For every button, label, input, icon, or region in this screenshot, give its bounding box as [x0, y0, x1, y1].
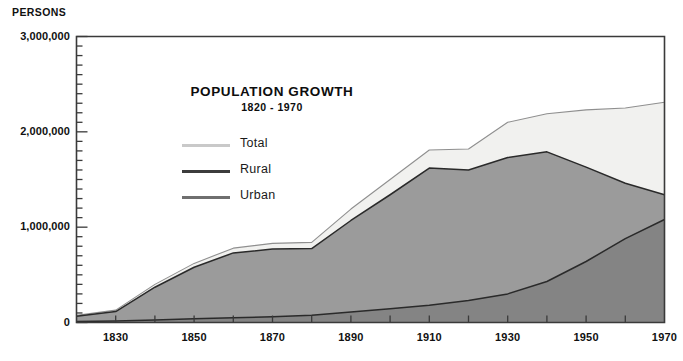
x-tick-label: 1910: [399, 331, 459, 343]
x-tick-label: 1970: [635, 331, 683, 343]
x-tick-label: 1870: [243, 331, 303, 343]
chart-plot-area: [0, 0, 683, 361]
legend-swatch-total: [182, 144, 230, 147]
x-tick-label: 1850: [164, 331, 224, 343]
x-tick-label: 1830: [86, 331, 146, 343]
y-tick-label: 0: [4, 316, 70, 328]
legend-label: Rural: [240, 162, 271, 176]
y-tick-label: 2,000,000: [4, 125, 70, 137]
chart-subtitle: 1820 - 1970: [152, 101, 392, 113]
legend-swatch-urban: [182, 196, 230, 199]
legend-label: Total: [240, 136, 268, 150]
population-growth-chart: PERSONS 3,000,0002,000,0001,000,0000 183…: [0, 0, 683, 361]
x-tick-label: 1890: [321, 331, 381, 343]
y-tick-label: 3,000,000: [4, 30, 70, 42]
legend-label: Urban: [240, 188, 276, 202]
legend-swatch-rural: [182, 170, 230, 173]
x-tick-label: 1950: [556, 331, 616, 343]
x-tick-label: 1930: [478, 331, 538, 343]
y-tick-label: 1,000,000: [4, 220, 70, 232]
chart-title: POPULATION GROWTH: [152, 84, 392, 99]
